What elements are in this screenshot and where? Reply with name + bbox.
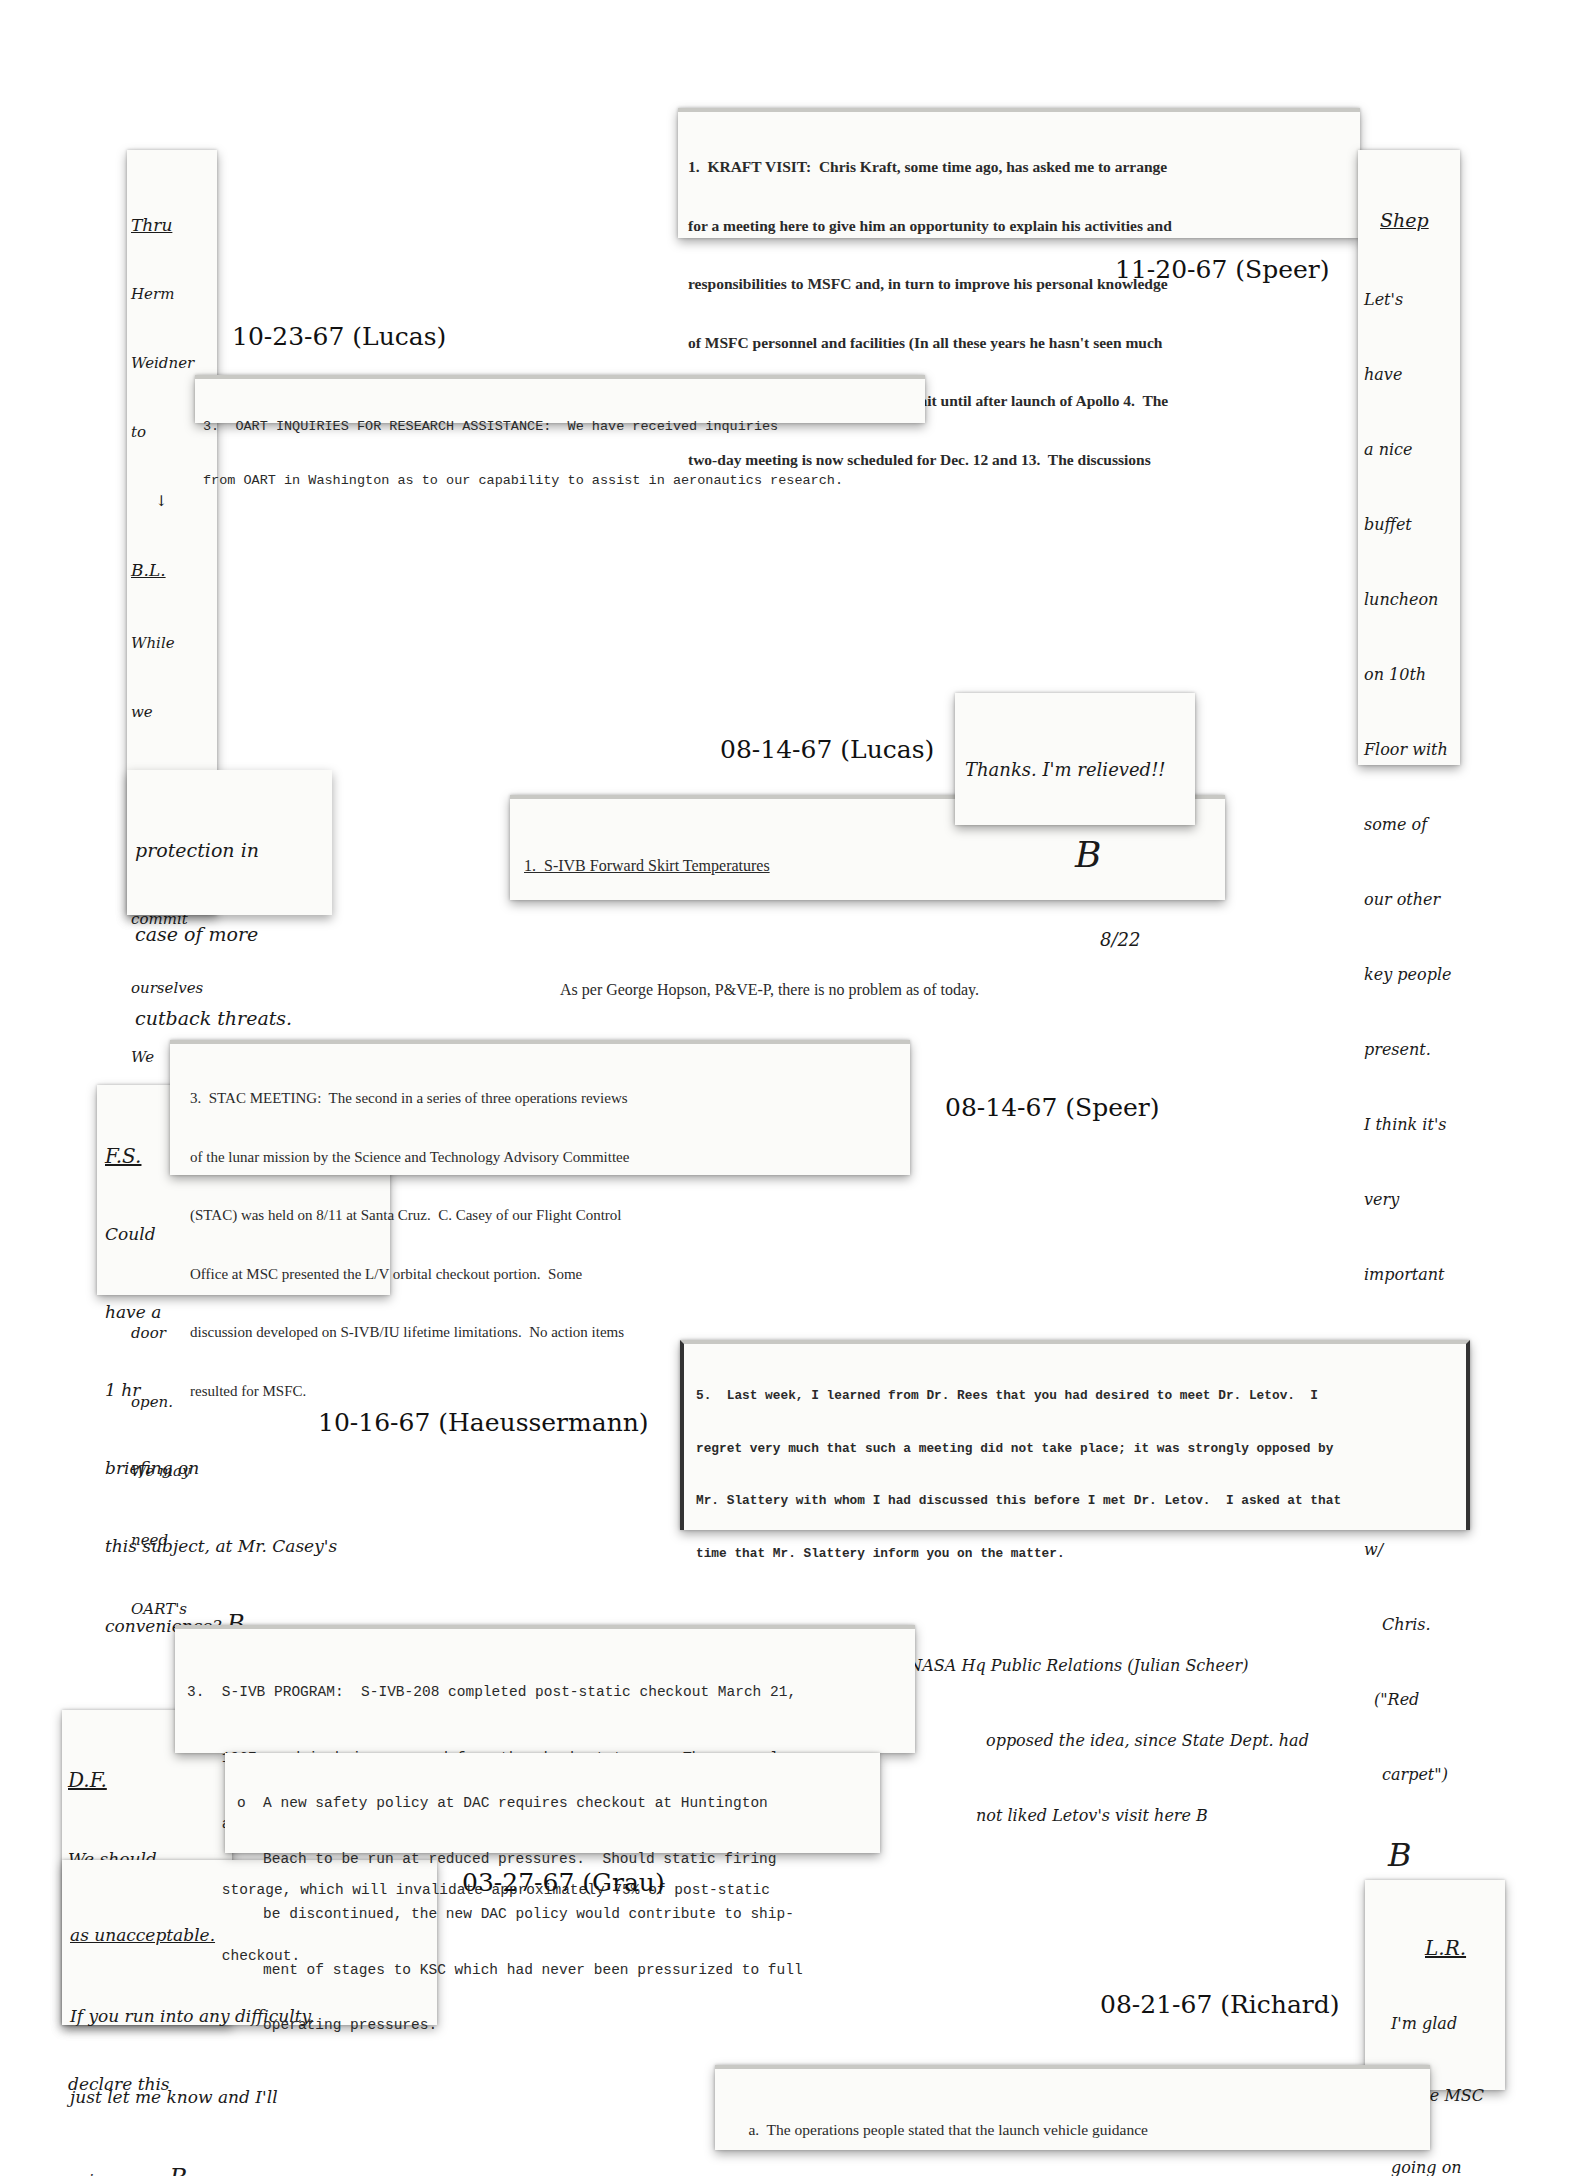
- note-line: on 10th: [1364, 662, 1454, 687]
- note-line: just let me know and I'll: [70, 2084, 429, 2111]
- note-line: we: [131, 701, 213, 724]
- letov-line: regret very much that such a meeting did…: [696, 1440, 1454, 1458]
- dac-line: ment of stages to KSC which had never be…: [237, 1961, 868, 1980]
- note-line: raise cane.: [70, 2170, 164, 2176]
- note-line: protection in: [135, 836, 324, 864]
- skirt-handwritten-note: Thanks. I'm relieved!! B 8/22: [955, 693, 1195, 825]
- stac-line: of the lunar mission by the Science and …: [190, 1148, 890, 1168]
- note-addressee: Shep: [1380, 208, 1454, 233]
- date-label: 11-20-67 (Speer): [1115, 255, 1329, 284]
- oart-inquiries-clipping: 3. OART INQUIRIES FOR RESEARCH ASSISTANC…: [195, 375, 925, 423]
- note-line: not liked Letov's visit here: [976, 1806, 1191, 1825]
- note-line: our other: [1364, 887, 1454, 912]
- note-line: opposed the idea, since State Dept. had: [986, 1728, 1454, 1753]
- note-line: Thanks. I'm relieved!!: [965, 757, 1185, 783]
- stac-line: (STAC) was held on 8/11 at Santa Cruz. C…: [190, 1206, 890, 1226]
- letov-line: time that Mr. Slattery inform you on the…: [696, 1545, 1454, 1563]
- letov-line: Mr. Slattery with whom I had discussed t…: [696, 1492, 1454, 1510]
- kraft-visit-clipping: 1. KRAFT VISIT: Chris Kraft, some time a…: [678, 108, 1360, 238]
- note-line: this subject, at Mr. Casey's: [105, 1533, 382, 1559]
- sivb-line: 3. S-IVB PROGRAM: S-IVB-208 completed po…: [187, 1681, 903, 1703]
- dac-safety-policy-clipping: o A new safety policy at DAC requires ch…: [225, 1753, 880, 1853]
- dac-line: Beach to be run at reduced pressures. Sh…: [237, 1850, 868, 1869]
- date-label: 08-14-67 (Lucas): [720, 735, 934, 764]
- date-label: 08-21-67 (Richard): [1100, 1990, 1340, 2019]
- routing-line: Weidner: [131, 352, 213, 375]
- kraft-line: of MSFC personnel and facilities (In all…: [688, 333, 1350, 353]
- note-line: very: [1364, 1187, 1454, 1212]
- note-line: I'm glad: [1391, 2012, 1495, 2036]
- date-label: 08-14-67 (Speer): [945, 1093, 1159, 1122]
- signature: B: [1196, 1806, 1208, 1825]
- dac-line: o A new safety policy at DAC requires ch…: [237, 1794, 868, 1813]
- note-line: case of more: [135, 920, 324, 948]
- oart-handwritten-note-foot: protection in case of more cutback threa…: [127, 770, 332, 915]
- kraft-line: 1. KRAFT VISIT: Chris Kraft, some time a…: [688, 157, 1350, 177]
- note-line: some of: [1364, 812, 1454, 837]
- note-line: Floor with: [1364, 737, 1454, 762]
- oart-line: 3. OART INQUIRIES FOR RESEARCH ASSISTANC…: [203, 418, 917, 436]
- date-label: 03-27-67 (Grau): [462, 1868, 665, 1897]
- note-addressee: L.R.: [1425, 1936, 1495, 1960]
- note-line: briefing on: [105, 1455, 382, 1481]
- kraft-line: for a meeting here to give him an opport…: [688, 216, 1350, 236]
- stac-line: 3. STAC MEETING: The second in a series …: [190, 1089, 890, 1109]
- note-line: key people: [1364, 962, 1454, 987]
- signature: B: [169, 2164, 187, 2176]
- note-line: a nice: [1364, 437, 1454, 462]
- note-line: important: [1364, 1262, 1454, 1287]
- note-line: NASA Hq Public Relations (Julian Scheer): [908, 1656, 1248, 1675]
- kraft-handwritten-note: Shep Let's have a nice buffet luncheon o…: [1358, 150, 1460, 765]
- routing-line: Herm: [131, 283, 213, 306]
- oart-line: from OART in Washington as to our capabi…: [203, 472, 917, 490]
- dac-line: be discontinued, the new DAC policy woul…: [237, 1905, 868, 1924]
- dac-line: operating pressures.: [237, 2016, 868, 2035]
- note-line: present.: [1364, 1037, 1454, 1062]
- note-line: cutback threats.: [135, 1004, 324, 1032]
- note-date: 8/22: [1100, 927, 1185, 953]
- routing-line: to: [131, 421, 213, 444]
- sivb-program-clipping: 3. S-IVB PROGRAM: S-IVB-208 completed po…: [175, 1625, 915, 1753]
- letov-meeting-clipping: 5. Last week, I learned from Dr. Rees th…: [680, 1340, 1470, 1530]
- guidance-clipping: a. The operations people stated that the…: [715, 2065, 1430, 2150]
- date-label: 10-16-67 (Haeussermann): [318, 1408, 649, 1437]
- note-line: buffet: [1364, 512, 1454, 537]
- note-line: Let's: [1364, 287, 1454, 312]
- guidance-handwritten-note: L.R. I'm glad to see MSC going on record…: [1365, 1880, 1505, 2090]
- signature: B: [1075, 835, 1185, 875]
- note-line: luncheon: [1364, 587, 1454, 612]
- routing-line: Thru: [131, 214, 213, 237]
- note-line: I think it's: [1364, 1112, 1454, 1137]
- letov-line: 5. Last week, I learned from Dr. Rees th…: [696, 1387, 1454, 1405]
- date-label: 10-23-67 (Lucas): [232, 322, 446, 351]
- note-line: have: [1364, 362, 1454, 387]
- stac-meeting-clipping: 3. STAC MEETING: The second in a series …: [170, 1040, 910, 1175]
- note-addressee: B.L.: [131, 559, 213, 582]
- note-line: While: [131, 632, 213, 655]
- guidance-line: a. The operations people stated that the…: [729, 2119, 1416, 2141]
- stac-line: Office at MSC presented the L/V orbital …: [190, 1265, 890, 1285]
